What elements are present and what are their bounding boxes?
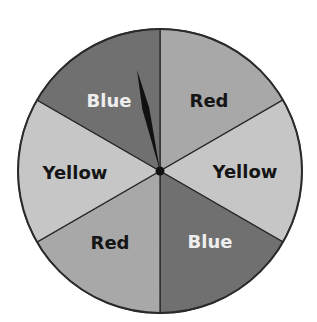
sector-label: Red xyxy=(91,232,130,253)
spinner-hub xyxy=(156,167,165,176)
sector-label: Blue xyxy=(188,231,233,252)
spinner-wheel: RedYellowBlueRedYellowBlue xyxy=(0,0,317,322)
sector-label: Red xyxy=(190,90,229,111)
sector-label: Blue xyxy=(87,90,132,111)
sector-label: Yellow xyxy=(42,162,108,183)
sector-label: Yellow xyxy=(212,161,278,182)
